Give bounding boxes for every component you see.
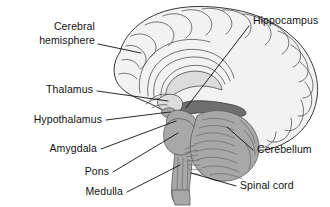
label-thalamus: Thalamus [46, 83, 93, 95]
label-cerebral-hemisphere-line2: hemisphere [39, 34, 95, 46]
brain-anatomy-figure: Cerebral hemisphere Thalamus Hypothalamu… [0, 0, 330, 207]
label-cerebral-hemisphere-line1: Cerebral [54, 20, 95, 32]
leader-pons [113, 133, 178, 172]
label-amygdala: Amygdala [50, 142, 98, 154]
label-hippocampus: Hippocampus [253, 14, 318, 26]
label-medulla: Medulla [86, 185, 124, 197]
brain-diagram: Cerebral hemisphere Thalamus Hypothalamu… [0, 0, 330, 207]
label-spinal-cord: Spinal cord [240, 179, 294, 191]
label-cerebellum: Cerebellum [257, 143, 312, 155]
label-hypothalamus: Hypothalamus [34, 113, 102, 125]
leader-hypothalamus [106, 112, 170, 120]
spinal-cord-shape [172, 190, 190, 205]
label-pons: Pons [85, 165, 109, 177]
